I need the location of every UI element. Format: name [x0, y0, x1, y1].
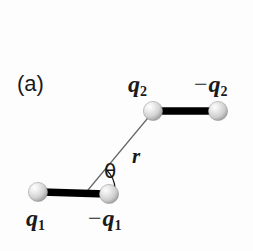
label-q2: q2	[128, 72, 147, 96]
label-neg-q1-sign: −	[88, 205, 103, 231]
label-q2-symbol: q	[128, 71, 140, 97]
label-neg-q1-symbol: q	[103, 205, 115, 231]
label-q1-symbol: q	[26, 205, 38, 231]
sphere-neg-q2	[208, 101, 227, 120]
label-neg-q1: −q1	[88, 206, 122, 230]
label-neg-q2-symbol: q	[209, 71, 221, 97]
sphere-q2	[143, 101, 162, 120]
dipole-diagram-figure: (a) q2 −q2 q1 −q1 r θ	[0, 0, 253, 251]
panel-label: (a)	[17, 73, 44, 95]
label-q1-subscript: 1	[38, 218, 45, 233]
label-q2-subscript: 2	[140, 84, 147, 99]
separation-line-r	[88, 113, 152, 190]
sphere-neg-q1	[99, 184, 118, 203]
label-neg-q2-subscript: 2	[221, 84, 228, 99]
label-neg-q2-sign: −	[194, 71, 209, 97]
dipole-lower-rod	[42, 192, 106, 194]
label-q1: q1	[26, 206, 45, 230]
label-separation-r: r	[132, 146, 140, 167]
label-neg-q1-subscript: 1	[115, 218, 122, 233]
label-neg-q2: −q2	[194, 72, 228, 96]
sphere-q1	[28, 182, 47, 201]
label-angle-theta: θ	[104, 161, 116, 181]
